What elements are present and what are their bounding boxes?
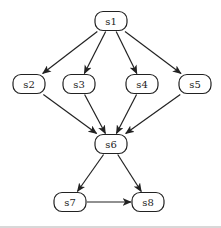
node-s6: s6 <box>95 135 127 154</box>
arrow-icon <box>43 95 96 134</box>
node-label: s2 <box>23 79 35 90</box>
arrow-icon <box>77 155 103 192</box>
node-label: s3 <box>73 79 85 90</box>
edge-s2-to-s6 <box>43 95 96 134</box>
arrow-icon <box>118 155 142 192</box>
node-s5: s5 <box>179 75 211 94</box>
edge-s6-to-s7 <box>77 155 103 192</box>
node-s7: s7 <box>54 193 86 212</box>
edge-s1-to-s2 <box>43 32 98 74</box>
bottom-divider <box>0 226 221 228</box>
node-label: s4 <box>136 79 148 90</box>
node-label: s6 <box>105 139 117 150</box>
node-label: s7 <box>64 197 76 208</box>
edges-layer <box>43 32 181 203</box>
arrow-icon <box>43 32 98 74</box>
arrow-icon <box>84 32 105 74</box>
node-label: s8 <box>142 197 154 208</box>
node-label: s5 <box>189 79 201 90</box>
edge-s6-to-s8 <box>118 155 142 192</box>
directed-graph: s1s2s3s4s5s6s7s8 <box>0 0 221 228</box>
node-s8: s8 <box>132 193 164 212</box>
node-s1: s1 <box>95 12 127 31</box>
node-s4: s4 <box>126 75 158 94</box>
edge-s1-to-s3 <box>84 32 105 74</box>
node-s2: s2 <box>13 75 45 94</box>
node-label: s1 <box>105 16 117 27</box>
nodes-layer: s1s2s3s4s5s6s7s8 <box>13 12 211 212</box>
node-s3: s3 <box>63 75 95 94</box>
